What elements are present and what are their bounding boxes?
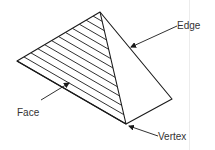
edge-label: Edge [177,21,200,31]
pyramid-outline [17,12,172,124]
vertex-label: Vertex [158,132,186,142]
edge-pointer-arrow [131,26,177,47]
vertex-pointer-arrow [129,126,158,136]
face-label: Face [17,108,39,118]
face-pointer-arrow [41,83,69,100]
